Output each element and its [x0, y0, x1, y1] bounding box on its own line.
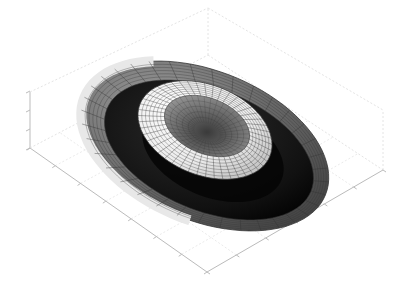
y-tick	[78, 183, 81, 185]
z-tick	[26, 110, 30, 112]
x-tick	[207, 272, 210, 274]
y-tick	[179, 254, 182, 256]
x-tick	[383, 170, 386, 172]
x-tick	[324, 204, 327, 206]
surface-plot	[0, 0, 406, 303]
y-tick	[153, 237, 156, 239]
surfaces	[81, 61, 328, 231]
x-tick	[236, 255, 239, 257]
x-tick	[266, 238, 269, 240]
z-tick	[26, 91, 30, 93]
y-tick	[128, 219, 131, 221]
y-tick	[52, 166, 55, 168]
plot-figure	[0, 0, 406, 303]
z-tick	[26, 129, 30, 131]
y-tick	[204, 272, 207, 274]
x-tick	[354, 187, 357, 189]
y-tick	[103, 201, 106, 203]
